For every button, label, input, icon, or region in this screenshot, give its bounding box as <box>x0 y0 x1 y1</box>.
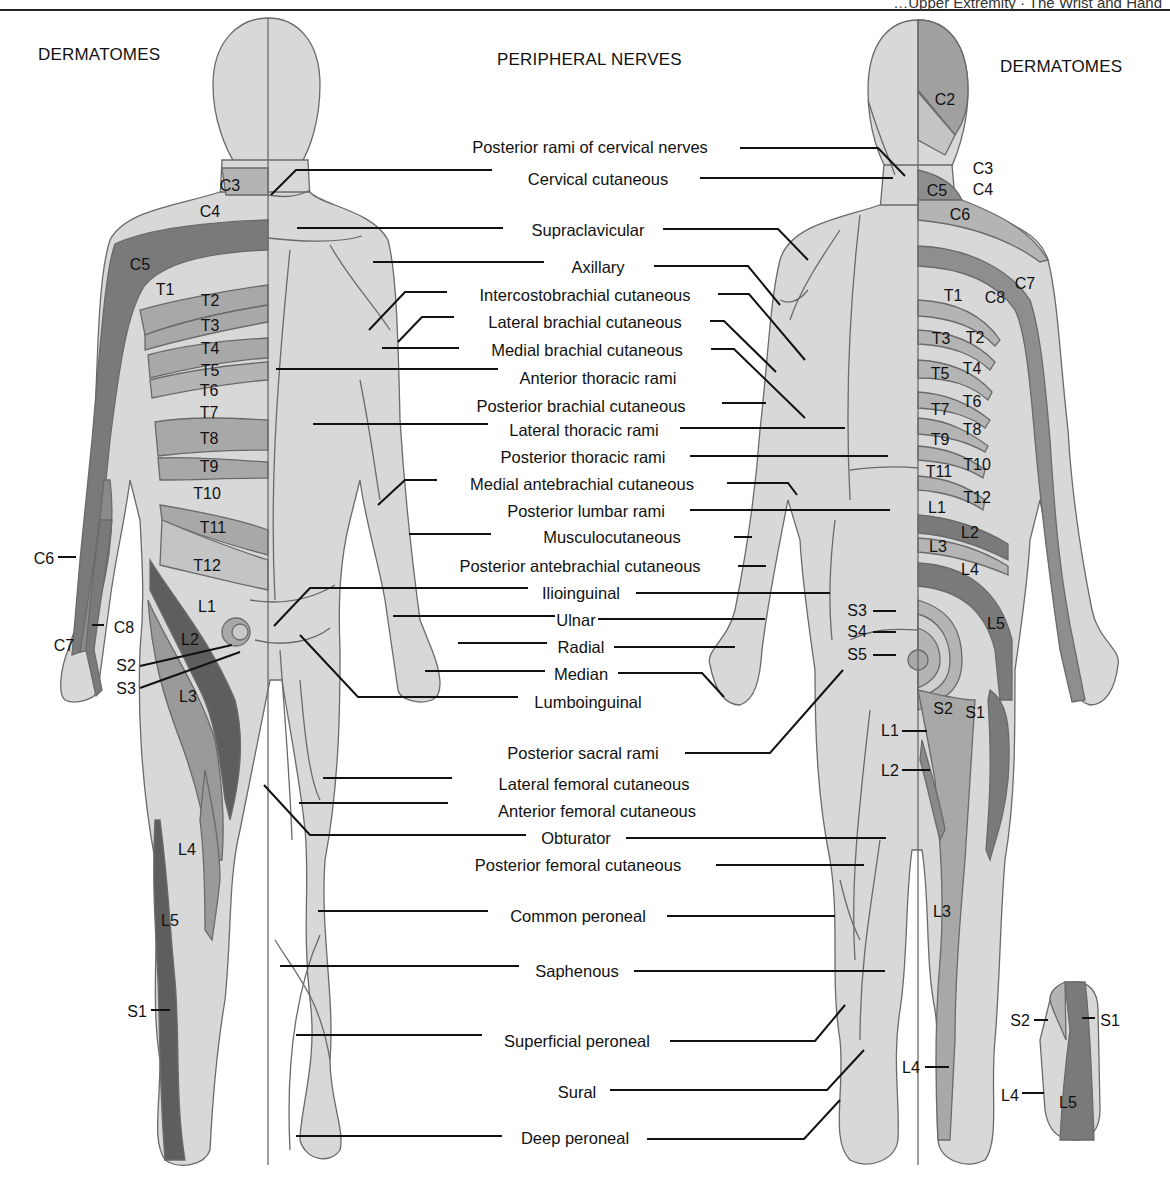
dermatome-label: S1 <box>127 1004 147 1020</box>
dermatome-label: L2 <box>181 632 199 648</box>
dermatome-label: C3 <box>973 161 993 177</box>
nerve-label: Obturator <box>541 829 611 847</box>
dermatome-label: C7 <box>1015 276 1035 292</box>
dermatome-label: T7 <box>931 402 950 418</box>
dermatome-label: S4 <box>847 624 867 640</box>
dermatome-label: T4 <box>201 341 220 357</box>
dermatome-label: L2 <box>881 763 899 779</box>
dermatome-label: L3 <box>929 539 947 555</box>
nerve-label: Lateral brachial cutaneous <box>488 313 682 331</box>
dermatome-label: T1 <box>944 288 963 304</box>
dermatome-label: T11 <box>200 520 226 536</box>
dermatome-label: C5 <box>927 183 947 199</box>
dermatome-label: T5 <box>931 366 950 382</box>
nerve-label: Axillary <box>571 258 624 276</box>
nerve-label: Cervical cutaneous <box>528 170 668 188</box>
nerve-label: Deep peroneal <box>521 1129 629 1147</box>
dermatome-label: L1 <box>198 599 216 615</box>
nerve-label: Posterior rami of cervical nerves <box>472 138 708 156</box>
nerve-label: Musculocutaneous <box>543 528 681 546</box>
dermatome-label: C8 <box>114 620 134 636</box>
nerve-label: Medial antebrachial cutaneous <box>470 475 694 493</box>
nerve-label: Supraclavicular <box>532 221 645 239</box>
dermatome-label: L4 <box>961 562 979 578</box>
nerve-label: Posterior brachial cutaneous <box>476 397 685 415</box>
right-heading-dermatomes: DERMATOMES <box>1000 57 1122 77</box>
dermatome-label: C4 <box>200 204 220 220</box>
nerve-label: Anterior femoral cutaneous <box>498 802 696 820</box>
dermatome-label: T10 <box>963 457 991 473</box>
dermatome-label: T2 <box>201 293 220 309</box>
dermatome-label: T3 <box>932 331 951 347</box>
nerve-label: Posterior sacral rami <box>507 744 658 762</box>
dermatome-label: T8 <box>200 431 219 447</box>
dermatome-label: T5 <box>201 363 220 379</box>
nerve-label: Ulnar <box>556 611 595 629</box>
dermatome-label: L1 <box>881 723 899 739</box>
dermatome-label: T9 <box>200 459 219 475</box>
dermatome-label: L4 <box>178 842 196 858</box>
dermatome-label: T6 <box>963 394 982 410</box>
nerve-label: Ilioinguinal <box>542 584 620 602</box>
dermatome-label: C4 <box>973 182 993 198</box>
dermatome-label: S2 <box>933 701 953 717</box>
dermatome-label: T10 <box>193 486 221 502</box>
dermatome-label: S2 <box>116 658 136 674</box>
nerve-label: Radial <box>558 638 605 656</box>
dermatome-label: T3 <box>201 318 220 334</box>
dermatome-label: C7 <box>54 638 74 654</box>
dermatome-label: L5 <box>1059 1095 1077 1111</box>
dermatome-label: S3 <box>116 681 136 697</box>
left-heading-dermatomes: DERMATOMES <box>38 45 160 65</box>
dermatome-label: C8 <box>985 290 1005 306</box>
dermatome-label: C6 <box>950 207 970 223</box>
nerve-label: Saphenous <box>535 962 619 980</box>
nerve-label: Lumboinguinal <box>534 693 641 711</box>
nerve-label: Intercostobrachial cutaneous <box>480 286 691 304</box>
dermatome-label: S1 <box>1100 1013 1120 1029</box>
dermatome-label: C3 <box>220 178 240 194</box>
dermatome-label: C5 <box>130 257 150 273</box>
dermatome-label: T7 <box>200 405 219 421</box>
dermatome-label: T6 <box>200 383 219 399</box>
dermatome-label: S5 <box>847 647 867 663</box>
dermatome-label: L2 <box>961 525 979 541</box>
dermatome-label: L3 <box>933 904 951 920</box>
dermatome-label: L1 <box>928 500 946 516</box>
nerve-label: Common peroneal <box>510 907 646 925</box>
dermatome-label: T1 <box>156 282 175 298</box>
dermatome-label: S3 <box>847 603 867 619</box>
dermatome-label: L5 <box>161 913 179 929</box>
nerve-label: Anterior thoracic rami <box>520 369 677 387</box>
dermatome-label: T8 <box>963 422 982 438</box>
dermatome-label: T12 <box>963 490 991 506</box>
dermatome-label: T2 <box>966 330 985 346</box>
dermatome-label: T12 <box>193 558 221 574</box>
dermatome-label: C6 <box>34 551 54 567</box>
dermatome-label: L4 <box>1001 1088 1019 1104</box>
nerve-label: Sural <box>558 1083 597 1101</box>
dermatome-label: S1 <box>965 705 985 721</box>
center-heading-peripheral-nerves: PERIPHERAL NERVES <box>497 50 682 70</box>
nerve-label: Posterior femoral cutaneous <box>475 856 681 874</box>
dermatome-label: L5 <box>987 616 1005 632</box>
nerve-label: Superficial peroneal <box>504 1032 650 1050</box>
nerve-label: Posterior lumbar rami <box>507 502 665 520</box>
nerve-label: Median <box>554 665 608 683</box>
dermatome-label: L3 <box>179 689 197 705</box>
nerve-label: Posterior antebrachial cutaneous <box>459 557 700 575</box>
dermatome-label: T4 <box>963 361 982 377</box>
nerve-label: Lateral thoracic rami <box>509 421 658 439</box>
dermatome-label: L4 <box>902 1060 920 1076</box>
nerve-label: Posterior thoracic rami <box>500 448 665 466</box>
dermatome-label: T9 <box>931 432 950 448</box>
dermatome-label: S2 <box>1010 1013 1030 1029</box>
dermatome-label: T11 <box>926 464 952 480</box>
nerve-label: Medial brachial cutaneous <box>491 341 683 359</box>
dermatome-label: C2 <box>935 92 955 108</box>
nerve-label: Lateral femoral cutaneous <box>499 775 690 793</box>
